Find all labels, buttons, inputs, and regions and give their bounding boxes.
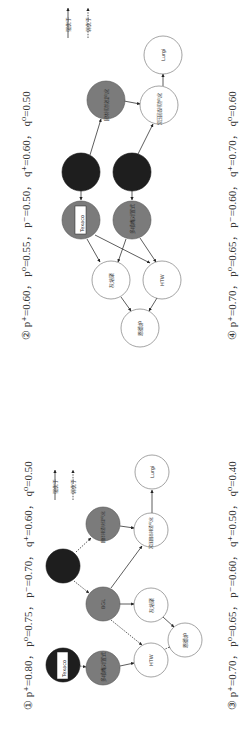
- legend-strong-label: 强优于: [65, 17, 72, 32]
- node-texaco: Texaco: [46, 648, 80, 682]
- rotated-page-figure: ② p⁺=0.60， p⁰=0.55， p⁻=0.50， q⁺=0.60， q⁰…: [0, 0, 247, 740]
- svg-text:固体排渣块煤气化: 固体排渣块煤气化: [103, 88, 110, 121]
- caption-1: ① p⁺=0.80， p⁰=0.75， p⁻=0.70， q⁺=0.60， q⁰…: [22, 461, 34, 710]
- diagram-1: ① p⁺=0.80， p⁰=0.75， p⁻=0.70， q⁺=0.60， q⁰…: [22, 455, 238, 710]
- svg-text:BGL: BGL: [100, 599, 106, 609]
- node-dark-b: [113, 153, 151, 191]
- node-ash-agglom: 灰熔聚: [92, 261, 130, 299]
- node-ende: 恩德炉: [168, 623, 202, 657]
- node-multi-nozzle: 多喷嘴对置式: [113, 201, 151, 239]
- svg-text:多喷嘴对置式: 多喷嘴对置式: [129, 204, 136, 234]
- caption-3: ③ p⁺=0.70， p⁰=0.65， p⁻=0.60， q⁺=0.50， q⁰…: [226, 461, 238, 710]
- node-pressure-slag: 常压固态排渣气化: [134, 513, 168, 549]
- svg-text:恩德炉: 恩德炉: [182, 633, 189, 648]
- svg-text:HTW: HTW: [159, 274, 165, 286]
- node-multi-nozzle: 多喷嘴对置式: [86, 651, 120, 685]
- node-bgl: BGL: [86, 587, 120, 621]
- svg-text:Lurgi: Lurgi: [160, 49, 167, 61]
- svg-text:多喷嘴对置式: 多喷嘴对置式: [100, 652, 107, 682]
- svg-text:常压固态排渣气化: 常压固态排渣气化: [156, 92, 163, 125]
- svg-text:Texaco: Texaco: [79, 215, 85, 233]
- node-slag-top: 固体排渣块煤气化: [86, 507, 120, 543]
- node-pressure-slag: 常压固态排渣气化: [140, 86, 178, 125]
- node-lurgi: Lurgi: [135, 455, 169, 489]
- svg-text:Lurgi: Lurgi: [149, 466, 156, 478]
- legend-weak-label: 弱优于: [85, 17, 92, 32]
- svg-text:Texaco: Texaco: [61, 660, 67, 678]
- node-dark-b: [46, 549, 80, 583]
- legend-2: 强优于 弱优于: [65, 8, 92, 38]
- node-dark-a: [62, 153, 100, 191]
- svg-text:灰熔聚: 灰熔聚: [108, 273, 115, 288]
- svg-text:固体排渣块煤气化: 固体排渣块煤气化: [100, 511, 106, 543]
- legend-weak-label: 弱优于: [70, 479, 77, 494]
- svg-text:常压固态排渣气化: 常压固态排渣气化: [148, 517, 154, 549]
- svg-text:HTW: HTW: [148, 654, 154, 666]
- node-htw: HTW: [134, 643, 168, 677]
- node-texaco: Texaco: [62, 201, 100, 239]
- caption-4: ④ p⁺=0.70， p⁰=0.65， p⁻=0.60， q⁺=0.70， q⁰…: [226, 91, 238, 340]
- node-htw: HTW: [143, 261, 181, 299]
- node-ende: 恩德炉: [121, 309, 159, 347]
- node-lurgi: Lurgi: [144, 36, 182, 74]
- node-ash-agglom: 灰熔聚: [134, 588, 168, 622]
- legend-1: 强优于 弱优于: [52, 470, 77, 500]
- node-slag-top: 固体排渣块煤气化: [87, 81, 125, 121]
- diagram-2: ② p⁺=0.60， p⁰=0.55， p⁻=0.50， q⁺=0.60， q⁰…: [20, 8, 238, 347]
- caption-2: ② p⁺=0.60， p⁰=0.55， p⁻=0.50， q⁺=0.60， q⁰…: [20, 91, 32, 340]
- svg-text:恩德炉: 恩德炉: [137, 321, 144, 336]
- legend-strong-label: 强优于: [52, 479, 59, 494]
- svg-text:灰熔聚: 灰熔聚: [148, 598, 155, 613]
